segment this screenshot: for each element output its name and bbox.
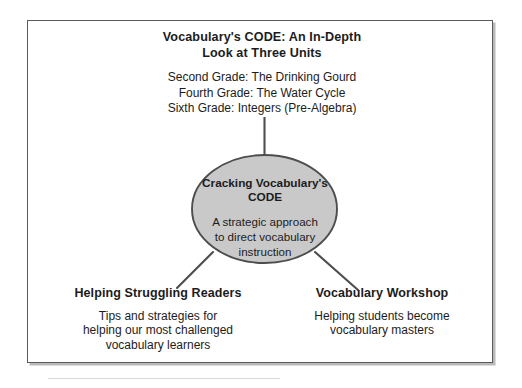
center-ellipse-text: Cracking Vocabulary's CODE A strategic a… (196, 176, 334, 259)
center-body-line3: instruction (196, 244, 334, 259)
branch-top-item-2: Sixth Grade: Integers (Pre-Algebra) (131, 101, 393, 117)
branch-bottom-right-heading: Vocabulary Workshop (292, 286, 472, 302)
branch-bottom-left: Helping Struggling Readers Tips and stra… (62, 286, 254, 353)
branch-bottom-right-body-line2: vocabulary masters (292, 323, 472, 338)
branch-top-heading-line1: Vocabulary's CODE: An In-Depth (131, 30, 393, 46)
center-body-line2: to direct vocabulary (196, 229, 334, 244)
branch-bottom-left-body-line3: vocabulary learners (62, 338, 254, 353)
branch-top: Vocabulary's CODE: An In-Depth Look at T… (131, 30, 393, 117)
branch-top-items: Second Grade: The Drinking Gourd Fourth … (131, 70, 393, 117)
center-title-line1: Cracking Vocabulary's (196, 176, 334, 190)
branch-bottom-left-body-line1: Tips and strategies for (62, 309, 254, 324)
center-body: A strategic approach to direct vocabular… (196, 214, 334, 259)
center-body-line1: A strategic approach (196, 214, 334, 229)
branch-bottom-left-body: Tips and strategies for helping our most… (62, 309, 254, 354)
center-title-line2: CODE (196, 190, 334, 204)
branch-bottom-right: Vocabulary Workshop Helping students bec… (292, 286, 472, 338)
scan-artifact-rule (48, 378, 280, 379)
branch-top-heading-line2: Look at Three Units (131, 46, 393, 62)
branch-top-item-1: Fourth Grade: The Water Cycle (131, 86, 393, 102)
branch-top-item-0: Second Grade: The Drinking Gourd (131, 70, 393, 86)
branch-bottom-right-body: Helping students become vocabulary maste… (292, 309, 472, 339)
branch-bottom-right-body-line1: Helping students become (292, 309, 472, 324)
branch-bottom-left-heading: Helping Struggling Readers (62, 286, 254, 302)
concept-map-canvas: Vocabulary's CODE: An In-Depth Look at T… (0, 0, 522, 388)
branch-bottom-left-body-line2: helping our most challenged (62, 323, 254, 338)
